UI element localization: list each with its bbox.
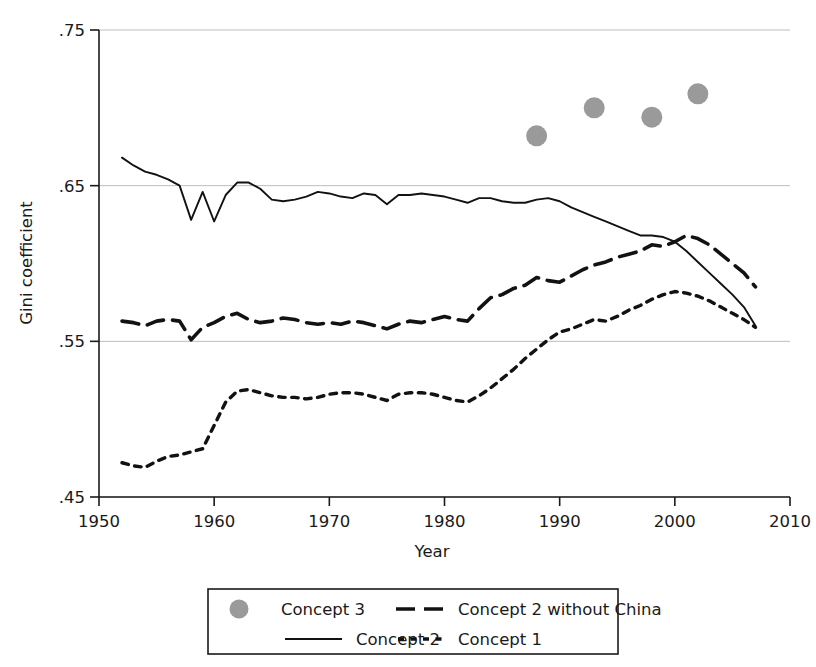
y-ticks [90, 30, 99, 497]
x-tick-label: 1970 [308, 512, 350, 531]
x-tick-label: 1980 [424, 512, 466, 531]
y-tick-label: .75 [59, 21, 85, 40]
series-concept-2-solid [122, 158, 755, 326]
x-tick-label: 1990 [539, 512, 581, 531]
legend-label-concept-3: Concept 3 [281, 600, 365, 619]
gini-coefficient-line-chart: .45.55.65.75 195019601970198019902000201… [0, 0, 816, 667]
y-tick-label: .45 [59, 488, 85, 507]
series-concept-2-without-china-dashed [122, 235, 755, 339]
x-tick-labels: 1950196019701980199020002010 [78, 512, 811, 531]
series-concept-3-scatter [526, 83, 708, 146]
scatter-point [641, 107, 662, 128]
legend-label-concept-1: Concept 1 [458, 630, 542, 649]
x-tick-label: 2000 [654, 512, 696, 531]
chart-figure: .45.55.65.75 195019601970198019902000201… [0, 0, 816, 667]
x-ticks [99, 497, 790, 506]
scatter-point [584, 97, 605, 118]
y-axis-title: Gini coefficient [17, 201, 36, 325]
scatter-point [687, 83, 708, 104]
x-tick-label: 1960 [193, 512, 235, 531]
x-axis-title: Year [414, 542, 450, 561]
y-tick-labels: .45.55.65.75 [59, 21, 85, 507]
scatter-point [526, 125, 547, 146]
x-tick-label: 1950 [78, 512, 120, 531]
y-gridlines [99, 30, 790, 497]
legend-label-concept-2-without-china: Concept 2 without China [458, 600, 662, 619]
y-tick-label: .55 [59, 332, 85, 351]
legend-gray-dot-marker-icon [230, 600, 249, 619]
y-tick-label: .65 [59, 177, 85, 196]
x-tick-label: 2010 [769, 512, 811, 531]
